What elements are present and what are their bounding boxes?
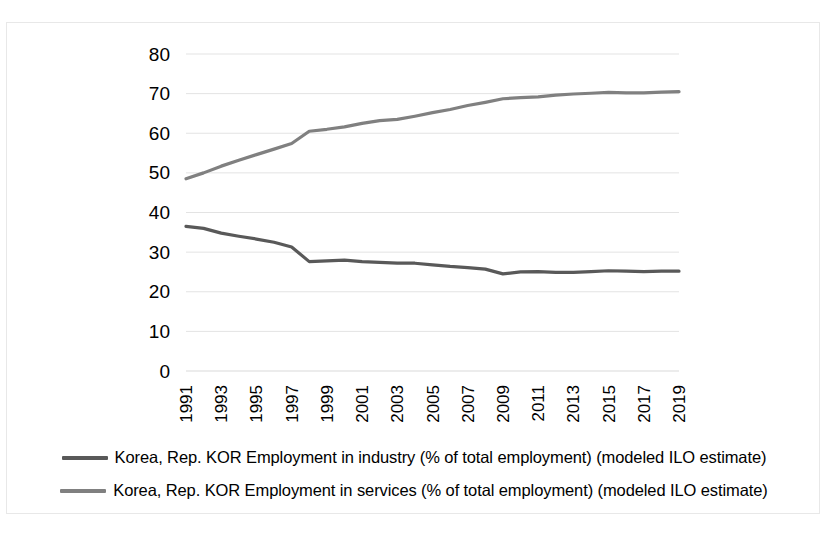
series-line-industry xyxy=(186,226,679,274)
y-axis-tick-label: 70 xyxy=(149,83,170,104)
x-axis-tick-label: 2017 xyxy=(635,385,654,423)
x-axis-tick-label: 1991 xyxy=(177,385,196,423)
x-axis-tick-labels: 1991199319951997199920012003200520072009… xyxy=(177,385,689,423)
y-axis-tick-label: 30 xyxy=(149,242,170,263)
legend-item-services: Korea, Rep. KOR Employment in services (… xyxy=(7,474,821,507)
x-axis-tick-label: 2001 xyxy=(353,385,372,423)
x-axis-tick-label: 2007 xyxy=(459,385,478,423)
x-axis-tick-label: 2011 xyxy=(529,385,548,422)
x-axis-tick-label: 1995 xyxy=(247,385,266,423)
gridlines xyxy=(186,54,679,371)
legend-label-services: Korea, Rep. KOR Employment in services (… xyxy=(113,481,768,500)
x-axis-tick-label: 2019 xyxy=(670,385,689,423)
legend-item-industry: Korea, Rep. KOR Employment in industry (… xyxy=(7,441,821,474)
y-axis-tick-label: 20 xyxy=(149,281,170,302)
line-chart-plot: 01020304050607080 1991199319951997199920… xyxy=(7,23,821,443)
x-axis-tick-label: 2015 xyxy=(600,385,619,423)
chart-container: 01020304050607080 1991199319951997199920… xyxy=(6,22,820,514)
x-axis-tick-label: 2005 xyxy=(424,385,443,423)
y-axis-tick-label: 50 xyxy=(149,162,170,183)
legend-swatch-industry xyxy=(62,456,108,460)
x-axis-tick-label: 2003 xyxy=(388,385,407,423)
x-axis-tick-label: 2013 xyxy=(564,385,583,423)
series-line-services xyxy=(186,92,679,179)
y-axis-tick-label: 10 xyxy=(149,321,170,342)
x-axis-tick-label: 1993 xyxy=(212,385,231,423)
legend-label-industry: Korea, Rep. KOR Employment in industry (… xyxy=(115,448,767,467)
x-axis-tick-label: 1999 xyxy=(318,385,337,423)
y-axis-tick-labels: 01020304050607080 xyxy=(149,44,170,382)
y-axis-tick-label: 80 xyxy=(149,44,170,65)
x-axis-tick-label: 1997 xyxy=(283,385,302,423)
data-series-lines xyxy=(186,92,679,274)
y-axis-tick-label: 0 xyxy=(159,361,170,382)
y-axis-tick-label: 40 xyxy=(149,202,170,223)
legend-swatch-services xyxy=(60,489,106,493)
chart-legend: Korea, Rep. KOR Employment in industry (… xyxy=(7,441,821,507)
y-axis-tick-label: 60 xyxy=(149,123,170,144)
x-axis-tick-label: 2009 xyxy=(494,385,513,423)
